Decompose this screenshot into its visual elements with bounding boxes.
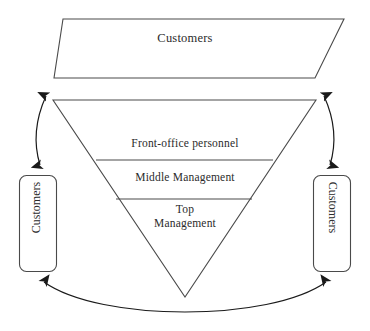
diagram-canvas: Customers Front-office personnel Middle … bbox=[0, 0, 370, 331]
diagram-vector-layer bbox=[0, 0, 370, 331]
top-trapezoid-shape bbox=[54, 19, 344, 78]
tier-label-front-office-personnel: Front-office personnel bbox=[0, 137, 370, 151]
right-box-label: Customers bbox=[325, 160, 340, 256]
tier-label-middle-management: Middle Management bbox=[0, 171, 370, 185]
right-connector-arrow bbox=[324, 96, 334, 165]
left-box-label: Customers bbox=[29, 160, 44, 256]
tier-label-top-management: TopManagement bbox=[0, 203, 370, 230]
top-trapezoid-label: Customers bbox=[0, 31, 370, 46]
left-connector-arrow bbox=[36, 96, 46, 165]
